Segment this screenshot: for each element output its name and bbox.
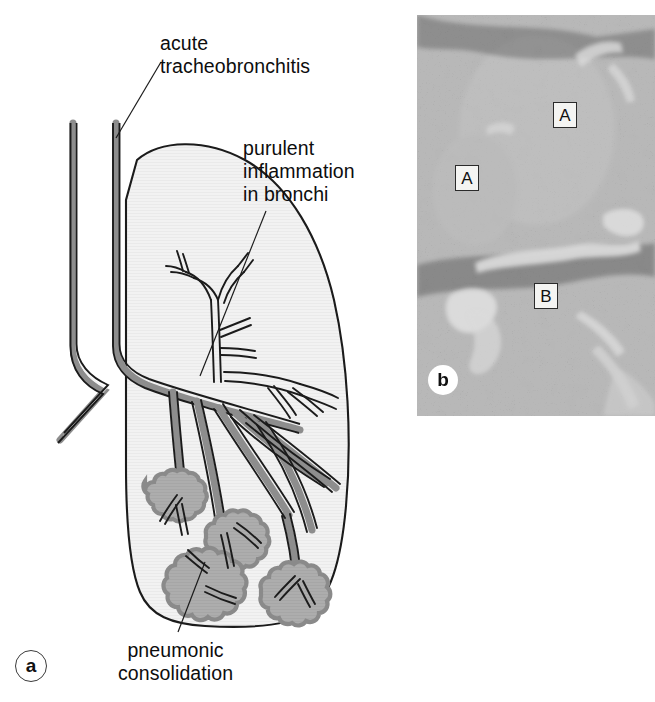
callout-purulent-inflammation-in-bronchi: purulent inflammation in bronchi <box>243 137 355 206</box>
histology-texture <box>417 15 655 416</box>
figure-container: acute tracheobronchitis purulent inflamm… <box>0 0 655 702</box>
histology-marker-a-left: A <box>455 165 479 191</box>
callout-acute-tracheobronchitis: acute tracheobronchitis <box>160 32 310 78</box>
histology-micrograph <box>417 15 655 416</box>
panel-letter-a: a <box>15 650 47 682</box>
lung-schematic-diagram <box>0 0 420 702</box>
panel-letter-b: b <box>428 365 458 395</box>
histology-marker-a-upper: A <box>553 102 577 128</box>
leader-acute-tracheobronchitis <box>116 62 161 138</box>
histology-marker-b: B <box>534 283 558 309</box>
callout-pneumonic-consolidation: pneumonic consolidation <box>118 639 233 685</box>
